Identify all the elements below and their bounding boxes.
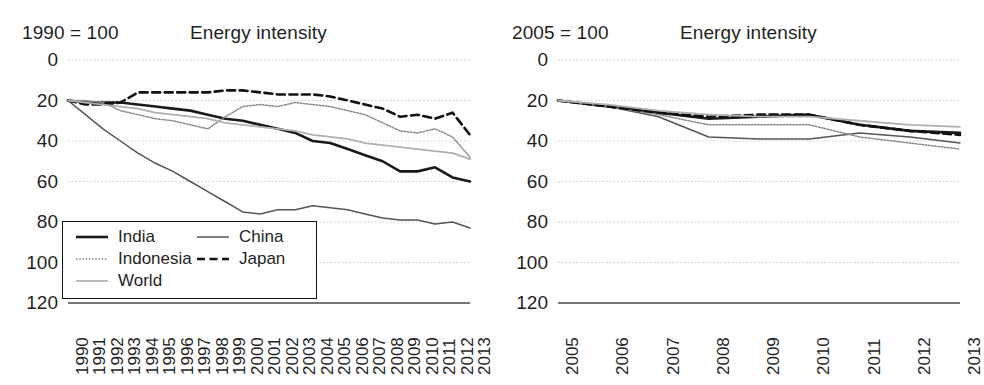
right-y-tick-label: 120 [490, 293, 548, 312]
right-x-tick-label: 2006 [614, 337, 631, 375]
left-y-tick-label: 20 [0, 91, 58, 110]
right-x-tick-label: 2011 [866, 338, 883, 375]
legend-label: China [239, 228, 283, 245]
left-x-tick-label: 2012 [459, 337, 476, 375]
left-chart-canvas [0, 0, 490, 385]
legend-item-india[interactable]: India [75, 228, 155, 245]
left-y-tick-label: 40 [0, 131, 58, 150]
right-y-tick-label: 20 [490, 91, 548, 110]
left-series-china [68, 101, 470, 229]
left-x-tick-label: 2004 [319, 337, 336, 375]
right-x-tick-label: 2010 [815, 337, 832, 375]
left-x-tick-label: 1995 [161, 337, 178, 375]
right-x-tick-label: 2005 [564, 337, 581, 375]
left-x-tick-label: 2010 [424, 337, 441, 375]
left-x-tick-label: 1996 [179, 337, 196, 375]
left-x-tick-label: 2006 [354, 337, 371, 375]
legend-label: Indonesia [118, 250, 192, 267]
left-x-tick-label: 1992 [109, 337, 126, 375]
left-y-tick-label: 60 [0, 172, 58, 191]
left-x-tick-label: 1991 [91, 337, 108, 375]
left-y-tick-label: 120 [0, 293, 58, 312]
right-x-tick-label: 2008 [715, 337, 732, 375]
left-x-tick-label: 1997 [196, 337, 213, 375]
legend-line-swatch-india-icon [75, 230, 109, 244]
right-y-tick-label: 100 [490, 253, 548, 272]
left-x-tick-label: 1998 [214, 337, 231, 375]
legend-line-swatch-world-icon [75, 274, 109, 288]
left-y-tick-label: 80 [0, 212, 58, 231]
left-x-tick-label: 1990 [74, 337, 91, 375]
right-x-tick-label: 2007 [665, 337, 682, 375]
right-y-tick-label: 60 [490, 172, 548, 191]
right-chart-canvas [490, 0, 980, 385]
legend-line-swatch-japan-icon [196, 252, 230, 266]
left-x-tick-label: 2007 [371, 337, 388, 375]
left-x-tick-label: 2008 [389, 337, 406, 375]
left-x-tick-label: 2009 [406, 337, 423, 375]
left-y-tick-label: 100 [0, 253, 58, 272]
left-x-tick-label: 1994 [144, 337, 161, 375]
legend-label: India [118, 228, 155, 245]
right-x-tick-label: 2009 [765, 337, 782, 375]
left-x-tick-label: 2003 [301, 337, 318, 375]
left-series-world [68, 101, 470, 160]
left-x-tick-label: 2002 [284, 337, 301, 375]
legend-item-china[interactable]: China [196, 228, 283, 245]
left-x-tick-label: 1993 [126, 337, 143, 375]
legend-item-indonesia[interactable]: Indonesia [75, 250, 192, 267]
left-x-tick-label: 2000 [249, 337, 266, 375]
legend-item-japan[interactable]: Japan [196, 250, 285, 267]
right-y-tick-label: 0 [490, 50, 548, 69]
left-x-tick-label: 2001 [266, 337, 283, 375]
legend-label: Japan [239, 250, 285, 267]
left-x-tick-label: 2011 [441, 338, 458, 375]
left-x-tick-label: 2005 [336, 337, 353, 375]
right-x-tick-label: 2013 [966, 337, 983, 375]
right-x-tick-label: 2012 [916, 337, 933, 375]
right-y-tick-label: 40 [490, 131, 548, 150]
chart-legend: IndiaChinaIndonesiaJapanWorld [62, 221, 317, 299]
left-x-tick-label: 1999 [231, 337, 248, 375]
legend-line-swatch-indonesia-icon [75, 252, 109, 266]
right-y-tick-label: 80 [490, 212, 548, 231]
left-y-tick-label: 0 [0, 50, 58, 69]
chart-panel-left: 1990 = 100 Energy intensity 120100806040… [0, 0, 490, 385]
chart-panel-right: 2005 = 100 Energy intensity 120100806040… [490, 0, 980, 385]
legend-item-world[interactable]: World [75, 272, 162, 289]
legend-line-swatch-china-icon [196, 230, 230, 244]
legend-label: World [118, 272, 162, 289]
